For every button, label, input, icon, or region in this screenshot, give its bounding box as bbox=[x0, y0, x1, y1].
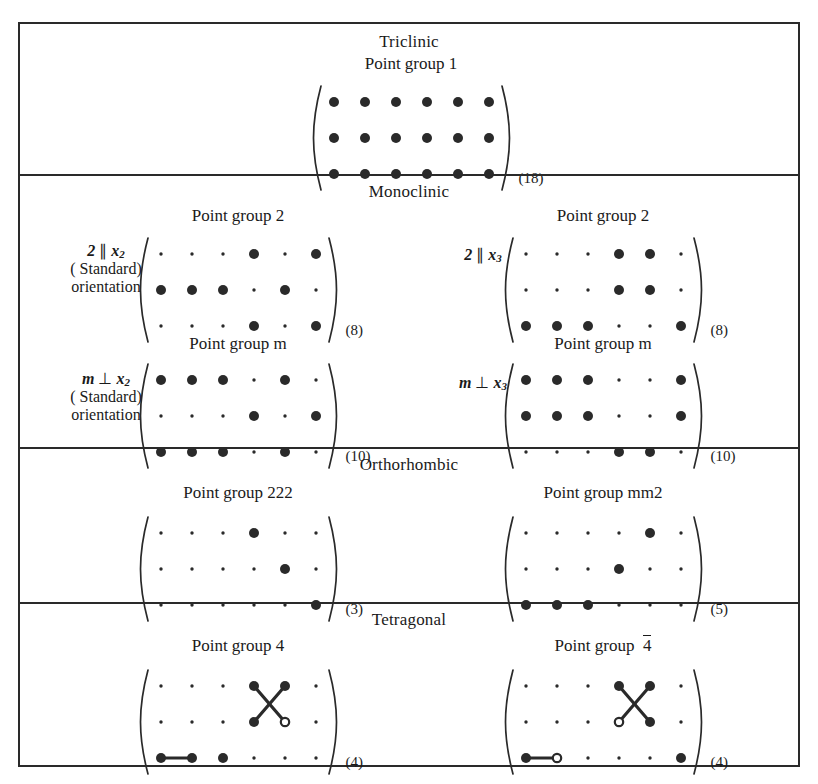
crystal-system-title: Triclinic bbox=[20, 32, 798, 52]
orientation-label: 2 ∥ x3 bbox=[417, 246, 549, 264]
side-label-line1: m ⊥ x3 bbox=[459, 374, 507, 391]
side-label-line1: 2 ∥ x3 bbox=[464, 246, 502, 263]
point-group-title: Point group mm2 bbox=[453, 483, 753, 503]
tensor-matrix-diagram bbox=[135, 666, 342, 778]
side-label-line1: 2 ∥ x2 bbox=[87, 242, 125, 259]
orientation-label: m ⊥ x2( Standard)orientation bbox=[40, 370, 172, 424]
orientation-label: m ⊥ x3 bbox=[417, 374, 549, 392]
orientation-label: 2 ∥ x2( Standard)orientation bbox=[40, 242, 172, 296]
side-label-line3: orientation bbox=[40, 406, 172, 424]
crystal-system-section-triclinic: TriclinicPoint group 1(18) bbox=[20, 24, 798, 174]
figure-canvas: TriclinicPoint group 1(18)MonoclinicPoin… bbox=[0, 0, 818, 784]
side-label-line3: orientation bbox=[40, 278, 172, 296]
point-group-title: Point group m bbox=[88, 334, 388, 354]
point-group-title: Point group 2 bbox=[88, 206, 388, 226]
figure-frame: TriclinicPoint group 1(18)MonoclinicPoin… bbox=[18, 22, 800, 767]
point-group-title: Point group 4 bbox=[453, 636, 753, 656]
crystal-system-title: Orthorhombic bbox=[20, 455, 798, 475]
independent-component-count: (4) bbox=[711, 754, 729, 771]
point-group-symbol-overline: 4 bbox=[643, 636, 652, 656]
independent-component-count: (4) bbox=[346, 754, 364, 771]
section-divider bbox=[20, 602, 798, 604]
point-group-title: Point group 2 bbox=[453, 206, 753, 226]
section-divider bbox=[20, 447, 798, 449]
side-label-line2: ( Standard) bbox=[40, 260, 172, 278]
point-group-title: Point group 222 bbox=[88, 483, 388, 503]
crystal-system-title: Monoclinic bbox=[20, 182, 798, 202]
crystal-system-section-orthorhombic: OrthorhombicPoint group 222(3)Point grou… bbox=[20, 447, 798, 602]
point-group-title: Point group 1 bbox=[261, 54, 561, 74]
crystal-system-section-tetragonal: TetragonalPoint group 4(4)Point group 4(… bbox=[20, 602, 798, 769]
point-group-title: Point group m bbox=[453, 334, 753, 354]
crystal-system-title: Tetragonal bbox=[20, 610, 798, 630]
crystal-system-section-monoclinic: MonoclinicPoint group 2(8)2 ∥ x2( Standa… bbox=[20, 174, 798, 447]
side-label-line1: m ⊥ x2 bbox=[82, 370, 130, 387]
point-group-title-text: Point group bbox=[555, 636, 635, 655]
point-group-title: Point group 4 bbox=[88, 636, 388, 656]
side-label-line2: ( Standard) bbox=[40, 388, 172, 406]
tensor-matrix-diagram bbox=[500, 666, 707, 778]
section-divider bbox=[20, 174, 798, 176]
